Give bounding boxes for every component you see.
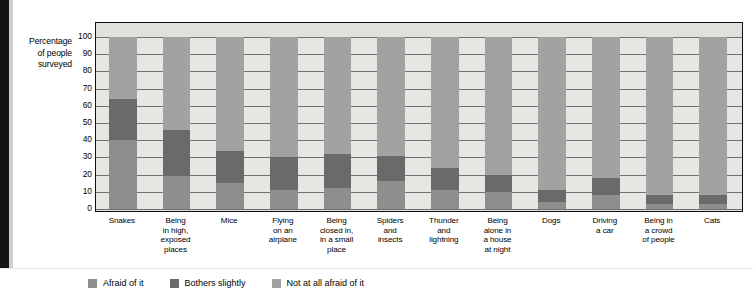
x-axis-label-6: Thunderandlightning — [417, 216, 471, 245]
bar-segment-not-at-all — [431, 37, 459, 168]
x-axis-label-line: Flying — [256, 216, 310, 226]
bar-group — [270, 37, 298, 209]
bar-group — [699, 37, 727, 209]
stacked-bar[interactable] — [431, 37, 459, 209]
page-binding-highlight — [9, 0, 13, 268]
stacked-bar[interactable] — [592, 37, 620, 209]
x-axis-label-line: Thunder — [417, 216, 471, 226]
x-axis-label-line: Being in — [632, 216, 686, 226]
bar-segment-afraid — [216, 183, 244, 209]
bar-segment-not-at-all — [377, 37, 405, 156]
page-binding-strip — [0, 0, 9, 268]
bar-segment-not-at-all — [646, 37, 674, 195]
bar-group — [538, 37, 566, 209]
x-axis-label-line: alone in — [471, 226, 525, 236]
bar-segment-afraid — [485, 192, 513, 209]
x-axis-label-2: Mice — [202, 216, 256, 226]
y-axis-tick-70: 70 — [70, 83, 92, 91]
x-axis-label-line: and — [417, 226, 471, 236]
legend-swatch-icon — [88, 279, 97, 288]
y-axis-title-line-1: Percentage — [18, 36, 72, 48]
x-axis-label-line: Snakes — [95, 216, 149, 226]
bar-segment-bothers — [324, 154, 352, 188]
legend-item-not_at_all[interactable]: Not at all afraid of it — [272, 279, 365, 288]
y-axis-title-line-2: of people — [18, 48, 72, 60]
y-axis-tick-20: 20 — [70, 169, 92, 177]
bar-segment-not-at-all — [324, 37, 352, 154]
x-axis-label-line: Mice — [202, 216, 256, 226]
bar-group — [592, 37, 620, 209]
stacked-bar[interactable] — [377, 37, 405, 209]
x-axis-label-line: Being — [310, 216, 364, 226]
stacked-bar[interactable] — [216, 37, 244, 209]
bar-segment-not-at-all — [163, 37, 191, 130]
x-axis-label-line: at night — [471, 245, 525, 255]
stacked-bar[interactable] — [270, 37, 298, 209]
x-axis-label-line: and — [363, 226, 417, 236]
bar-segment-not-at-all — [485, 37, 513, 175]
stacked-bar[interactable] — [538, 37, 566, 209]
bar-segment-not-at-all — [699, 37, 727, 195]
x-axis-label-1: Beingin high,exposedplaces — [149, 216, 203, 254]
legend-label: Bothers slightly — [185, 279, 246, 288]
chart-bars-layer — [96, 37, 742, 209]
bar-segment-bothers — [163, 130, 191, 176]
bar-segment-afraid — [109, 140, 137, 209]
y-axis-title-line-3: surveyed — [18, 59, 72, 71]
bar-segment-bothers — [431, 168, 459, 190]
y-axis-tick-labels: 0102030405060708090100 — [70, 32, 92, 214]
stacked-bar[interactable] — [163, 37, 191, 209]
stacked-bar[interactable] — [699, 37, 727, 209]
x-axis-label-11: Cats — [685, 216, 739, 226]
x-axis-label-line: airplane — [256, 235, 310, 245]
bar-group — [377, 37, 405, 209]
bar-segment-bothers — [377, 156, 405, 182]
x-axis-label-line: closed in, — [310, 226, 364, 236]
chart-legend: Afraid of itBothers slightlyNot at all a… — [88, 276, 390, 290]
bar-segment-not-at-all — [538, 37, 566, 190]
x-axis-label-9: Drivinga car — [578, 216, 632, 235]
x-axis-label-0: Snakes — [95, 216, 149, 226]
bar-segment-afraid — [699, 204, 727, 209]
x-axis-label-line: a car — [578, 226, 632, 236]
legend-swatch-icon — [170, 279, 179, 288]
x-axis-label-line: insects — [363, 235, 417, 245]
stacked-bar[interactable] — [109, 37, 137, 209]
bar-segment-bothers — [592, 178, 620, 195]
bar-segment-bothers — [485, 175, 513, 192]
bar-segment-not-at-all — [592, 37, 620, 178]
x-axis-label-line: Being — [149, 216, 203, 226]
bar-group — [431, 37, 459, 209]
x-axis-label-line: on an — [256, 226, 310, 236]
legend-label: Afraid of it — [103, 279, 144, 288]
y-axis-tick-60: 60 — [70, 101, 92, 109]
bar-segment-afraid — [538, 202, 566, 209]
bar-group — [646, 37, 674, 209]
bar-segment-afraid — [431, 190, 459, 209]
stacked-bar[interactable] — [646, 37, 674, 209]
bar-segment-bothers — [270, 157, 298, 190]
x-axis-label-line: of people — [632, 235, 686, 245]
x-axis-label-10: Being ina crowdof people — [632, 216, 686, 245]
y-axis-tick-0: 0 — [70, 204, 92, 212]
x-axis-label-3: Flyingon anairplane — [256, 216, 310, 245]
x-axis-category-labels: SnakesBeingin high,exposedplacesMiceFlyi… — [95, 216, 743, 268]
y-axis-title: Percentage of people surveyed — [18, 36, 72, 71]
bar-segment-afraid — [377, 181, 405, 209]
x-axis-label-line: Dogs — [524, 216, 578, 226]
chart-plot-frame — [95, 22, 743, 212]
legend-item-bothers[interactable]: Bothers slightly — [170, 279, 246, 288]
bar-segment-bothers — [216, 151, 244, 184]
x-axis-label-line: Driving — [578, 216, 632, 226]
bar-segment-afraid — [646, 204, 674, 209]
x-axis-label-line: places — [149, 245, 203, 255]
stacked-bar[interactable] — [485, 37, 513, 209]
x-axis-label-5: Spidersandinsects — [363, 216, 417, 245]
bar-segment-afraid — [592, 195, 620, 209]
gridline-0 — [96, 209, 742, 210]
page-bottom-rule — [0, 268, 753, 269]
x-axis-label-line: in a small — [310, 235, 364, 245]
stacked-bar[interactable] — [324, 37, 352, 209]
y-axis-tick-100: 100 — [70, 32, 92, 40]
legend-item-afraid[interactable]: Afraid of it — [88, 279, 144, 288]
